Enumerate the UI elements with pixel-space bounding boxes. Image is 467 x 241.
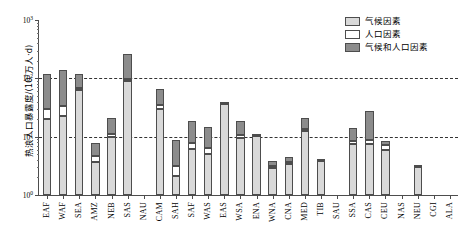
y-tick-minor — [37, 84, 40, 85]
bar-sah[interactable] — [172, 140, 180, 195]
bar-segment-climate — [123, 81, 131, 195]
bar-ssa[interactable] — [349, 128, 357, 195]
x-axis-label: AMZ — [90, 202, 99, 221]
bar-segment-both — [349, 128, 357, 141]
x-tick — [95, 195, 96, 199]
legend-swatch-climate-and-population — [345, 43, 360, 52]
bar-segment-both — [236, 121, 244, 135]
bar-waf[interactable] — [59, 70, 67, 195]
x-tick — [434, 195, 435, 199]
x-axis-label: EAS — [219, 202, 228, 218]
x-axis-label: SAH — [171, 202, 180, 219]
x-tick — [450, 195, 451, 199]
bar-amz[interactable] — [91, 143, 99, 195]
x-tick — [176, 195, 177, 199]
x-tick — [47, 195, 48, 199]
x-tick — [289, 195, 290, 199]
bar-cam[interactable] — [156, 89, 164, 195]
bar-segment-climate — [301, 131, 309, 195]
bar-segment-climate — [107, 137, 115, 195]
y-tick-minor — [37, 87, 40, 88]
bar-segment-climate — [349, 144, 357, 195]
bar-segment-climate — [268, 168, 276, 196]
x-axis-label: SSA — [348, 202, 357, 218]
bar-eaf[interactable] — [43, 74, 51, 195]
x-tick — [369, 195, 370, 199]
bar-sea[interactable] — [75, 74, 83, 195]
legend-item-climate-and-population: 气候和人口因素 — [345, 41, 428, 54]
x-tick — [305, 195, 306, 199]
y-tick-minor — [37, 38, 40, 39]
x-axis-label: WNA — [268, 202, 277, 222]
x-tick — [321, 195, 322, 199]
x-axis-label: NEU — [413, 202, 422, 219]
y-tick-minor — [37, 142, 40, 143]
x-axis-label: EAF — [42, 202, 51, 218]
bar-segment-climate — [220, 104, 228, 195]
bar-cas[interactable] — [365, 111, 373, 195]
y-tick-major — [35, 195, 39, 196]
bar-segment-climate — [204, 154, 212, 195]
x-tick — [128, 195, 129, 199]
bar-segment-climate — [317, 161, 325, 195]
x-axis-label: MED — [300, 202, 309, 221]
grid-line — [39, 137, 458, 138]
bar-segment-climate — [414, 167, 422, 195]
bar-segment-both — [123, 54, 131, 78]
bar-saf[interactable] — [188, 121, 196, 195]
bar-segment-climate — [59, 116, 67, 195]
y-tick-label: 101 — [23, 131, 33, 142]
y-tick-minor — [37, 29, 40, 30]
bar-tib[interactable] — [317, 159, 325, 195]
bar-med[interactable] — [301, 118, 309, 195]
x-tick — [257, 195, 258, 199]
bar-ena[interactable] — [252, 134, 260, 195]
x-axis-label: TIB — [316, 202, 325, 216]
y-tick-major — [35, 20, 39, 21]
bar-segment-climate — [188, 149, 196, 195]
bar-was[interactable] — [204, 127, 212, 195]
bar-segment-climate — [172, 176, 180, 195]
y-tick-label: 103 — [23, 15, 33, 26]
bar-sas[interactable] — [123, 54, 131, 195]
x-tick — [240, 195, 241, 199]
y-tick-minor — [37, 150, 40, 151]
y-tick-minor — [37, 61, 40, 62]
chart-legend: 气候因素 人口因素 气候和人口因素 — [345, 15, 428, 54]
x-axis-label: CAS — [364, 202, 373, 218]
x-axis-label: CNA — [284, 202, 293, 220]
y-tick-minor — [37, 109, 40, 110]
bar-ceu[interactable] — [381, 141, 389, 195]
bar-segment-climate — [43, 119, 51, 195]
x-axis-label: SAF — [187, 202, 196, 218]
x-tick — [224, 195, 225, 199]
bar-eas[interactable] — [220, 102, 228, 195]
bar-segment-both — [91, 143, 99, 156]
bar-wsa[interactable] — [236, 121, 244, 195]
bar-segment-both — [156, 89, 164, 105]
x-axis-label: NAU — [139, 202, 148, 220]
bar-segment-both — [75, 74, 83, 88]
bar-segment-pop — [59, 106, 67, 116]
bar-segment-both — [204, 127, 212, 148]
y-tick-label: 102 — [23, 73, 33, 84]
y-tick-minor — [37, 102, 40, 103]
x-tick — [402, 195, 403, 199]
x-axis-label: WAF — [58, 202, 67, 220]
y-tick-label: 100 — [23, 190, 33, 201]
bar-segment-both — [59, 70, 67, 106]
bar-segment-both — [107, 118, 115, 134]
y-tick-minor — [37, 154, 40, 155]
y-tick-minor — [37, 91, 40, 92]
bar-neu[interactable] — [414, 165, 422, 195]
bar-segment-both — [365, 111, 373, 140]
x-axis-label: CGI — [429, 202, 438, 217]
bar-neb[interactable] — [107, 118, 115, 195]
x-tick — [385, 195, 386, 199]
x-axis-label: NAS — [397, 202, 406, 219]
bar-segment-both — [188, 121, 196, 143]
bar-wna[interactable] — [268, 161, 276, 195]
bar-segment-both — [301, 118, 309, 128]
bar-segment-pop — [172, 166, 180, 177]
bar-cna[interactable] — [285, 157, 293, 195]
